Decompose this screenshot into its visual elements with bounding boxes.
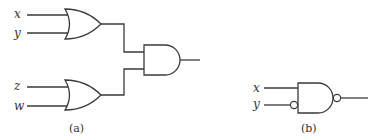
nand-gate — [298, 83, 333, 113]
input-label-y: y — [13, 26, 21, 40]
caption-b: (b) — [301, 122, 317, 135]
input-inversion-bubble — [290, 101, 297, 108]
input-label-z: z — [13, 79, 21, 93]
input-label-y-b: y — [252, 97, 260, 111]
wire-or-top-to-and — [101, 24, 144, 52]
input-label-w: w — [14, 99, 25, 113]
and-gate — [144, 45, 180, 75]
input-label-x: x — [14, 7, 21, 21]
or-gate-bottom — [65, 80, 101, 110]
output-inversion-bubble — [333, 94, 340, 101]
or-gate-top — [65, 9, 101, 39]
input-label-x-b: x — [253, 81, 260, 95]
wire-or-bottom-to-and — [101, 69, 144, 95]
caption-a: (a) — [69, 122, 84, 135]
logic-circuit-diagram: x y z w (a) x y — [0, 0, 386, 140]
figure-a: x y z w (a) — [13, 7, 200, 135]
figure-b: x y (b) — [252, 81, 368, 135]
